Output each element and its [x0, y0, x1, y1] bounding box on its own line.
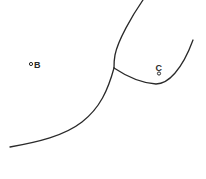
right-boundary-curve: [114, 40, 193, 84]
diagram-svg: B C: [0, 0, 206, 179]
label-b: B: [34, 60, 41, 70]
point-b-marker: [29, 62, 32, 65]
point-c-marker: [157, 72, 160, 75]
phase-diagram: B C: [0, 0, 206, 179]
upper-boundary-curve: [114, 0, 143, 68]
lower-boundary-curve: [10, 68, 114, 147]
